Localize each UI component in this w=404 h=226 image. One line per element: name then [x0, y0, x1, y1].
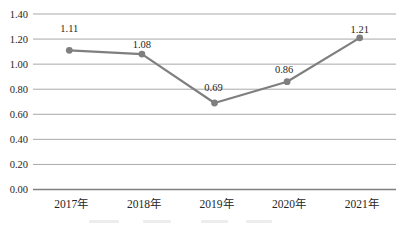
- cropped-text-remnant: [143, 220, 171, 223]
- y-axis-tick-label: 1.40: [10, 9, 28, 20]
- data-point-marker: [356, 34, 363, 41]
- data-point-label: 1.11: [60, 23, 78, 34]
- data-point-label: 0.69: [204, 82, 222, 93]
- data-point-marker: [66, 47, 73, 54]
- y-axis-tick-label: 0.60: [10, 109, 28, 120]
- y-axis-tick-label: 0.40: [10, 134, 28, 145]
- x-axis-tick-label: 2021年: [345, 197, 379, 210]
- cropped-text-remnant: [246, 220, 272, 223]
- x-axis-tick-label: 2020年: [272, 197, 306, 210]
- data-point-marker: [211, 100, 218, 107]
- cropped-text-remnant: [89, 220, 119, 223]
- x-axis-tick-label: 2018年: [127, 197, 161, 210]
- y-axis-tick-label: 1.00: [10, 59, 28, 70]
- series-line: [69, 38, 359, 103]
- x-axis-tick-label: 2017年: [54, 197, 88, 210]
- data-point-label: 1.08: [133, 39, 151, 50]
- y-axis-tick-label: 0.20: [10, 159, 28, 170]
- line-chart: 1.401.201.000.800.600.400.200.002017年201…: [0, 0, 404, 226]
- data-point-marker: [284, 78, 291, 85]
- y-axis-tick-label: 1.20: [10, 34, 28, 45]
- data-point-label: 1.21: [351, 24, 369, 35]
- cropped-text-remnant: [201, 220, 228, 223]
- x-axis-tick-label: 2019年: [200, 197, 234, 210]
- data-point-marker: [139, 51, 146, 58]
- data-point-label: 0.86: [275, 64, 293, 75]
- y-axis-tick-label: 0.80: [10, 84, 28, 95]
- chart-canvas: 1.401.201.000.800.600.400.200.002017年201…: [0, 0, 404, 226]
- y-axis-tick-label: 0.00: [10, 184, 28, 195]
